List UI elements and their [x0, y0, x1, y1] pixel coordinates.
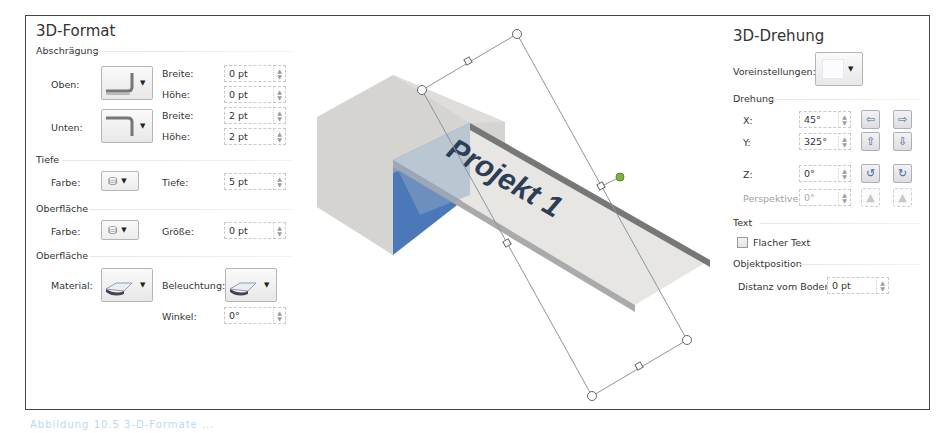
spinner-arrows[interactable]: ▲▼: [838, 112, 850, 127]
bevel-top-width-input[interactable]: 0 pt▲▼: [224, 65, 286, 82]
chevron-down-icon: ▼: [140, 79, 145, 87]
resize-handle[interactable]: [597, 182, 605, 190]
z-rotation-input[interactable]: 0°▲▼: [799, 165, 851, 182]
flat-text-checkbox[interactable]: [737, 237, 748, 248]
divider: [62, 160, 292, 161]
bevel-top-width-label: Breite:: [162, 68, 193, 79]
divider: [90, 209, 292, 210]
format-3d-title: 3D-Format: [36, 22, 115, 40]
rotate-ccw-button[interactable]: ↺: [861, 164, 880, 183]
flat-text-label[interactable]: Flacher Text: [753, 237, 810, 248]
divider: [800, 264, 920, 265]
bevel-bottom-dropdown[interactable]: ▼: [101, 109, 153, 143]
bevel-angle-icon: [102, 112, 136, 140]
material-dropdown[interactable]: ▼: [101, 268, 153, 302]
x-rotation-input[interactable]: 45°▲▼: [799, 111, 851, 128]
spinner-arrows[interactable]: ▲▼: [273, 308, 285, 323]
section-bevel: Abschrägung: [36, 45, 99, 56]
chevron-down-icon: ▼: [848, 65, 853, 73]
preset-preview-icon: [822, 59, 844, 79]
rotate-down-button[interactable]: ⇩: [893, 132, 912, 151]
contour-size-input[interactable]: 0 pt▲▼: [224, 222, 286, 239]
spinner-arrows[interactable]: ▲▼: [273, 174, 285, 189]
spinner-arrows[interactable]: ▲▼: [273, 66, 285, 81]
preview-3d-shape[interactable]: Projekt 1: [300, 20, 720, 410]
bevel-bottom-height-label: Höhe:: [162, 131, 190, 142]
bevel-top-height-label: Höhe:: [162, 89, 190, 100]
perspective-wide-button[interactable]: ▲: [893, 188, 912, 207]
bevel-bottom-width-label: Breite:: [162, 110, 193, 121]
section-text: Text: [733, 217, 752, 228]
rotate-cw-button[interactable]: ↻: [893, 164, 912, 183]
depth-color-dropdown[interactable]: ⛁ ▼: [101, 171, 139, 191]
angle-input[interactable]: 0°▲▼: [224, 307, 286, 324]
rotate-up-button[interactable]: ⇧: [861, 132, 880, 151]
chevron-down-icon: ▼: [121, 177, 126, 185]
divider: [770, 99, 920, 100]
chevron-down-icon: ▼: [121, 226, 126, 234]
perspective-label: Perspektive:: [743, 193, 802, 204]
rotation-handle[interactable]: [616, 173, 624, 181]
resize-handle[interactable]: [418, 86, 427, 95]
perspective-narrow-button[interactable]: ▲: [861, 188, 880, 207]
distance-input[interactable]: 0 pt▲▼: [827, 277, 889, 294]
bevel-bottom-width-input[interactable]: 2 pt▲▼: [224, 107, 286, 124]
spinner-arrows[interactable]: ▲▼: [838, 166, 850, 181]
divider: [90, 256, 292, 257]
chevron-down-icon: ▼: [140, 122, 145, 130]
resize-handle[interactable]: [635, 362, 643, 370]
spinner-arrows[interactable]: ▲▼: [273, 223, 285, 238]
resize-handle[interactable]: [588, 392, 597, 401]
perspective-input[interactable]: 0°▲▼: [799, 189, 851, 206]
paint-bucket-icon: ⛁: [108, 175, 117, 188]
paint-bucket-icon: ⛁: [108, 224, 117, 237]
angle-label: Winkel:: [162, 311, 197, 322]
lighting-dropdown[interactable]: ▼: [225, 268, 277, 302]
y-rotation-label: Y:: [743, 137, 751, 148]
divider: [760, 223, 920, 224]
presets-label: Voreinstellungen:: [733, 66, 816, 77]
section-surface: Oberfläche: [36, 250, 88, 261]
spinner-arrows[interactable]: ▲▼: [838, 134, 850, 149]
figure-caption: Abbildung 10.5 3-D-Formate ...: [30, 419, 214, 430]
distance-label: Distanz vom Boden:: [738, 281, 834, 292]
material-label: Material:: [51, 280, 93, 291]
spinner-arrows[interactable]: ▲▼: [273, 108, 285, 123]
section-object-position: Objektposition: [733, 258, 802, 269]
section-contour: Oberfläche: [36, 203, 88, 214]
bevel-top-height-input[interactable]: 0 pt▲▼: [224, 86, 286, 103]
bevel-angle-icon: [102, 69, 136, 97]
spinner-arrows[interactable]: ▲▼: [838, 190, 850, 205]
chevron-down-icon: ▼: [264, 281, 269, 289]
divider: [92, 51, 292, 52]
bevel-top-label: Oben:: [51, 79, 80, 90]
section-depth: Tiefe: [36, 154, 59, 165]
x-rotation-label: X:: [743, 115, 753, 126]
chevron-down-icon: ▼: [140, 281, 145, 289]
rotate-left-button[interactable]: ⇦: [861, 110, 880, 129]
spinner-arrows[interactable]: ▲▼: [273, 129, 285, 144]
rotation-3d-title: 3D-Drehung: [733, 27, 824, 45]
presets-dropdown[interactable]: ▼: [815, 52, 863, 86]
resize-handle[interactable]: [513, 30, 522, 39]
section-rotation: Drehung: [733, 93, 774, 104]
spinner-arrows[interactable]: ▲▼: [876, 278, 888, 293]
resize-handle[interactable]: [683, 336, 692, 345]
z-rotation-label: Z:: [743, 169, 753, 180]
contour-color-label: Farbe:: [51, 226, 80, 237]
bevel-top-dropdown[interactable]: ▼: [101, 66, 153, 100]
depth-input[interactable]: 5 pt▲▼: [224, 173, 286, 190]
bevel-bottom-label: Unten:: [51, 122, 83, 133]
material-icon: [102, 271, 136, 299]
resize-handle[interactable]: [464, 57, 472, 65]
resize-handle[interactable]: [503, 239, 511, 247]
rotate-right-button[interactable]: ⇨: [893, 110, 912, 129]
spinner-arrows[interactable]: ▲▼: [273, 87, 285, 102]
contour-color-dropdown[interactable]: ⛁ ▼: [101, 220, 139, 240]
lighting-label: Beleuchtung:: [162, 280, 225, 291]
y-rotation-input[interactable]: 325°▲▼: [799, 133, 851, 150]
depth-label: Tiefe:: [162, 177, 188, 188]
lighting-icon: [226, 271, 260, 299]
bevel-bottom-height-input[interactable]: 2 pt▲▼: [224, 128, 286, 145]
depth-color-label: Farbe:: [51, 177, 80, 188]
